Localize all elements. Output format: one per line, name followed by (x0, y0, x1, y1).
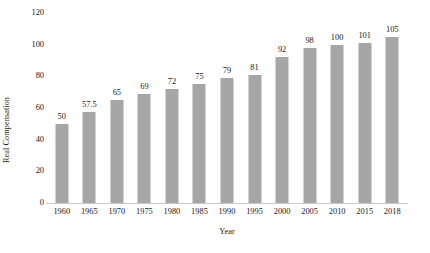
x-axis-tick-label: 1995 (241, 205, 269, 218)
bar-slot: 98 (296, 8, 324, 203)
bar (110, 100, 123, 203)
bar (358, 43, 371, 203)
y-axis-title-label: Real Compensation (2, 97, 11, 163)
y-axis-ticks: 020406080100120 (20, 0, 44, 253)
bar-value-label: 98 (305, 36, 313, 46)
bar-slot: 57.5 (76, 8, 104, 203)
y-axis-tick-label: 40 (20, 135, 44, 145)
bar-chart: Real Compensation 020406080100120 5057.5… (0, 0, 430, 253)
y-axis-tick-label: 120 (20, 8, 44, 18)
x-axis-tick-label: 2018 (378, 205, 406, 218)
x-axis-tick-label: 2015 (351, 205, 379, 218)
bar (248, 75, 261, 203)
plot-area: 5057.56569727579819298100101105 (48, 8, 406, 203)
bar (165, 89, 178, 203)
bar-value-label: 81 (250, 63, 258, 73)
x-axis-tick-label: 2010 (323, 205, 351, 218)
bar-value-label: 79 (223, 66, 231, 76)
bar (220, 78, 233, 203)
bar-value-label: 100 (331, 33, 344, 43)
bar-value-label: 65 (113, 88, 121, 98)
bar-value-label: 92 (278, 45, 286, 55)
bar (193, 84, 206, 203)
bar (386, 37, 399, 203)
bar (83, 112, 96, 203)
y-axis-tick-label: 60 (20, 103, 44, 113)
bar-slot: 101 (351, 8, 379, 203)
x-axis-tick-label: 1970 (103, 205, 131, 218)
bar (303, 48, 316, 203)
bar-value-label: 50 (58, 112, 66, 122)
x-axis-tick-label: 2005 (296, 205, 324, 218)
y-axis-tick-label: 80 (20, 71, 44, 81)
x-axis-tick-label: 1980 (158, 205, 186, 218)
bar-value-label: 105 (386, 25, 399, 35)
bar-value-label: 75 (195, 72, 203, 82)
bar-slot: 92 (268, 8, 296, 203)
bar-slot: 75 (186, 8, 214, 203)
x-axis-tick-label: 2000 (268, 205, 296, 218)
bar-slot: 81 (241, 8, 269, 203)
x-axis-line (46, 203, 408, 204)
bar (55, 124, 68, 203)
bar-slot: 65 (103, 8, 131, 203)
bar (276, 57, 289, 203)
x-axis-tick-label: 1990 (213, 205, 241, 218)
bar-value-label: 101 (358, 31, 371, 41)
x-axis-title: Year (48, 226, 406, 238)
x-axis-tick-label: 1975 (131, 205, 159, 218)
x-axis-tick-label: 1985 (186, 205, 214, 218)
bar-value-label: 57.5 (82, 100, 97, 110)
x-axis-tick-label: 1965 (76, 205, 104, 218)
y-axis-tick-label: 0 (20, 198, 44, 208)
bar-slot: 69 (131, 8, 159, 203)
x-axis-ticks: 1960196519701975198019851990199520002005… (48, 205, 406, 219)
bar (331, 45, 344, 203)
y-axis-tick-label: 20 (20, 166, 44, 176)
x-axis-tick-label: 1960 (48, 205, 76, 218)
bar-slot: 50 (48, 8, 76, 203)
bar-value-label: 69 (140, 82, 148, 92)
bar-series: 5057.56569727579819298100101105 (48, 8, 406, 203)
bar-slot: 105 (378, 8, 406, 203)
y-axis-tick-label: 100 (20, 40, 44, 50)
bar-value-label: 72 (168, 77, 176, 87)
bar-slot: 72 (158, 8, 186, 203)
bar-slot: 79 (213, 8, 241, 203)
bar-slot: 100 (323, 8, 351, 203)
bar (138, 94, 151, 203)
